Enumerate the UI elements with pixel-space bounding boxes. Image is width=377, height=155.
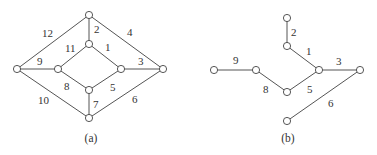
node-d — [283, 88, 290, 95]
figure-b-spanning-tree: 1235689 (b) — [210, 14, 363, 145]
node-ml — [252, 66, 259, 73]
node-u — [283, 42, 290, 49]
edge-5 — [89, 69, 121, 90]
edge-label: 2 — [94, 23, 100, 35]
figure-a-caption: (a) — [85, 132, 98, 145]
edge-label: 4 — [127, 26, 133, 38]
edge-label: 6 — [132, 93, 138, 105]
edge-12 — [17, 15, 89, 69]
edge-label: 6 — [328, 97, 334, 109]
edge-label: 8 — [263, 83, 269, 95]
node-il — [54, 65, 61, 72]
edge-8 — [58, 69, 89, 90]
edge-label: 12 — [42, 27, 53, 39]
edge-label: 11 — [65, 42, 76, 54]
edge-label: 1 — [306, 45, 312, 57]
edge-label: 2 — [291, 26, 297, 38]
node-b — [283, 117, 290, 124]
edge-label: 5 — [307, 83, 313, 95]
edge-label: 3 — [336, 55, 342, 67]
edge-label: 10 — [38, 94, 50, 106]
edge-10 — [17, 69, 89, 118]
edge-1 — [287, 46, 319, 70]
edge-label: 3 — [138, 55, 144, 67]
node-l — [13, 65, 20, 72]
node-t — [283, 14, 290, 21]
graph-diagram-canvas: 123456789101112 (a) 1235689 (b) — [0, 0, 377, 155]
node-ir — [117, 65, 124, 72]
node-t — [85, 11, 92, 18]
node-h — [315, 66, 322, 73]
edge-6 — [287, 70, 360, 121]
node-r — [159, 65, 166, 72]
node-b — [85, 114, 92, 121]
node-fl — [210, 66, 217, 73]
edge-label: 9 — [233, 54, 239, 66]
edge-4 — [89, 15, 163, 69]
edge-8 — [256, 70, 287, 92]
edge-label: 8 — [64, 80, 70, 92]
edge-group — [214, 18, 360, 121]
figure-b-caption: (b) — [281, 132, 295, 145]
edge-label: 1 — [105, 41, 111, 53]
edge-label: 5 — [110, 81, 116, 93]
edge-label-group: 123456789101112 — [37, 23, 144, 110]
node-r — [356, 66, 363, 73]
edge-label: 9 — [37, 55, 43, 67]
figure-a-full-graph: 123456789101112 (a) — [13, 11, 166, 145]
edge-6 — [89, 69, 163, 118]
edge-label: 7 — [93, 98, 99, 110]
node-it — [85, 40, 92, 47]
node-ib — [85, 86, 92, 93]
edge-5 — [287, 70, 319, 92]
